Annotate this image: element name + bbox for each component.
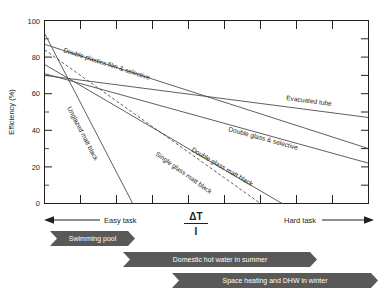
x-axis-ticks-top xyxy=(81,21,333,30)
hard-task-arrowhead-icon xyxy=(364,216,374,224)
delta-t-over-i-marker: ΔT I xyxy=(184,211,208,237)
y-tick-label-100: 100 xyxy=(27,17,40,26)
y-tick-label-40: 40 xyxy=(32,126,40,135)
label-double-plastics-film-selective: Double plastics film & selective xyxy=(62,46,151,82)
y-tick-label-20: 20 xyxy=(32,163,40,172)
application-bar-domestic-hot-water[interactable]: Domestic hot water in summer xyxy=(123,252,317,267)
space-heating-bar-label: Space heating and DHW in winter xyxy=(222,277,328,285)
delta-t-numerator: ΔT xyxy=(189,211,202,222)
task-difficulty-row: Easy task Hard task xyxy=(44,216,374,225)
label-evacuated-tube: Evacuated tube xyxy=(286,94,333,107)
swimming-pool-bar-label: Swimming pool xyxy=(69,235,117,243)
easy-task-arrowhead-icon xyxy=(44,216,54,224)
domestic-hot-water-bar-label: Domestic hot water in summer xyxy=(173,256,268,263)
label-unglazed-matt-black: Unglazed matt black xyxy=(65,105,100,162)
chart-svg: 0 20 40 60 80 100 Efficiency (%) xyxy=(0,0,386,304)
y-axis-title: Efficiency (%) xyxy=(7,89,16,135)
application-bar-swimming-pool[interactable]: Swimming pool xyxy=(50,231,135,246)
y-tick-label-80: 80 xyxy=(32,53,40,62)
easy-task-label: Easy task xyxy=(104,216,137,225)
hard-task-label: Hard task xyxy=(284,216,316,225)
delta-t-denominator: I xyxy=(195,226,198,237)
y-tick-label-60: 60 xyxy=(32,89,40,98)
solar-collector-efficiency-figure: 0 20 40 60 80 100 Efficiency (%) xyxy=(0,0,386,304)
y-tick-label-0: 0 xyxy=(36,199,40,208)
application-bar-space-heating[interactable]: Space heating and DHW in winter xyxy=(172,273,378,288)
plot-frame xyxy=(45,21,369,204)
x-axis-ticks-bottom xyxy=(81,195,333,204)
label-double-glass-selective: Double glass & selective xyxy=(227,125,299,152)
